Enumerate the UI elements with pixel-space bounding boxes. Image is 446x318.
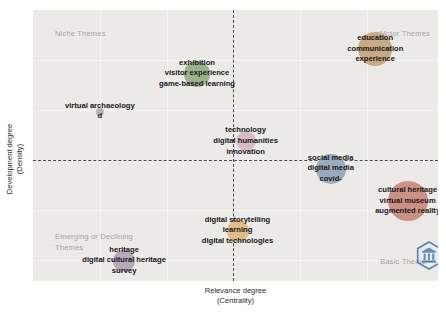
bubble-education-cluster[interactable] (358, 32, 392, 66)
bubble-technology-cluster[interactable] (236, 131, 256, 151)
x-axis-title-sub: (Centrality) (33, 296, 438, 306)
gridline-horizontal (33, 110, 438, 111)
bubble-exhibition-cluster[interactable] (184, 61, 210, 87)
x-axis-title: Relevance degree (Centrality) (33, 286, 438, 306)
bubble-digital-storytelling-cluster[interactable] (227, 220, 249, 242)
gridline-horizontal (33, 210, 438, 211)
bubble-virtual-archaeology-cluster[interactable] (96, 108, 104, 116)
x-axis-title-main: Relevance degree (33, 286, 438, 296)
bubble-heritage-cluster[interactable] (113, 250, 135, 272)
quadrant-divider-horizontal (33, 160, 438, 161)
gridline-vertical (300, 10, 301, 281)
y-axis-title-sub: (Density) (15, 84, 25, 234)
thematic-map-figure: Development degree (Density) Relevance d… (0, 0, 446, 318)
hexagon-badge-icon (416, 241, 438, 270)
y-axis-title: Development degree (Density) (5, 84, 25, 234)
bubble-social-media-cluster[interactable] (316, 154, 346, 184)
gridline-horizontal (33, 260, 438, 261)
plot-area: Niche Themes Motor Themes Emerging or De… (33, 10, 438, 281)
gridline-vertical (167, 10, 168, 281)
bubble-cultural-heritage-cluster[interactable] (388, 181, 428, 221)
quadrant-label-niche-themes: Niche Themes (55, 28, 106, 39)
y-axis-title-main: Development degree (5, 84, 15, 234)
